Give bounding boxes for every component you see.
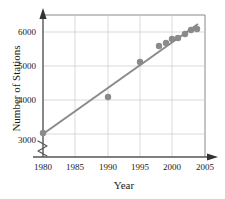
- x-tick-label-1995: 1995: [131, 163, 149, 172]
- x-tick-label-1985: 1985: [66, 163, 84, 172]
- data-point: [156, 43, 162, 49]
- data-point: [169, 36, 175, 42]
- y-axis-title: Number of Stations: [11, 34, 22, 144]
- data-point: [40, 130, 46, 136]
- data-point: [163, 40, 169, 46]
- data-point: [137, 59, 143, 65]
- data-point: [188, 27, 194, 33]
- x-axis-title: Year: [114, 180, 134, 191]
- vertical-gridlines: [75, 15, 172, 157]
- x-tick-label-1980: 1980: [34, 163, 52, 172]
- data-point: [194, 26, 200, 32]
- data-point: [182, 31, 188, 37]
- x-axis: [33, 153, 218, 160]
- x-tick-label-1990: 1990: [99, 163, 117, 172]
- axis-break-icon: [38, 141, 47, 156]
- data-point: [175, 35, 181, 41]
- chart-figure: 6000 5000 4000 3000 1980 1985 1990 1995 …: [0, 0, 225, 199]
- horizontal-gridlines: [43, 32, 205, 134]
- x-tick-label-2000: 2000: [163, 163, 181, 172]
- data-point: [105, 94, 111, 100]
- x-tick-label-2005: 2005: [196, 163, 214, 172]
